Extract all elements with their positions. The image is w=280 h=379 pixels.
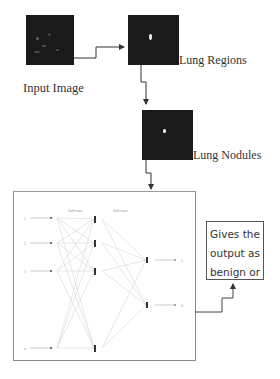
svg-text:0: 0 [181,304,183,308]
svg-text:2: 2 [24,242,26,246]
arrow-regions-to-nodules [141,65,146,104]
arrow-network-to-output [195,284,233,312]
layer-label-2: Softmax [113,209,128,213]
layer-label-1: Softmax [68,209,83,213]
arrow-nodules-to-network [146,160,151,189]
svg-text:1: 1 [181,259,183,263]
diagram-connectors: Softmax Softmax 1 2 3 n [0,0,280,379]
svg-text:3: 3 [24,270,26,274]
svg-text:n: n [24,347,26,351]
svg-text:1: 1 [24,217,26,221]
arrow-input-to-regions [74,47,124,58]
